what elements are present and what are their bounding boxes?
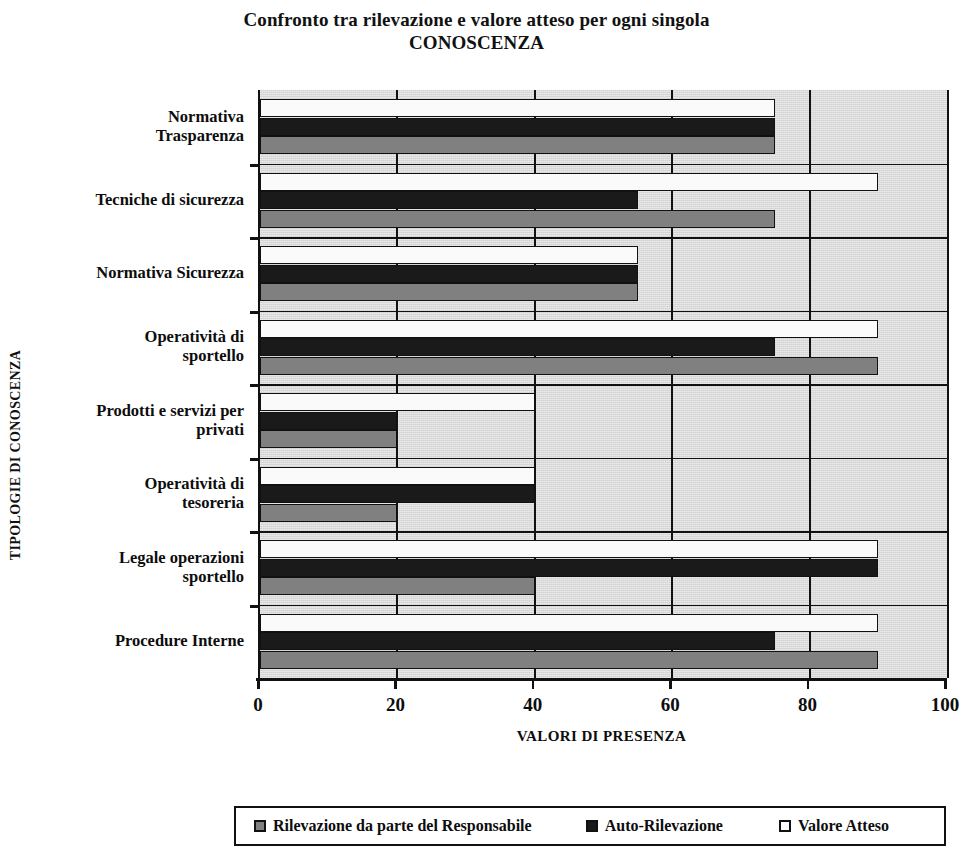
x-axis-tick [807, 678, 810, 689]
legend-label: Auto-Rilevazione [605, 817, 723, 835]
bar-1-0 [260, 118, 775, 136]
bar-1-5 [260, 485, 535, 503]
category-label: Tecniche di sicurezza [30, 190, 244, 209]
category-axis-labels: NormativaTrasparenzaTecniche di sicurezz… [30, 90, 252, 678]
bar-2-5 [260, 467, 535, 485]
category-label-line: sportello [30, 567, 244, 586]
category-label: Legale operazionisportello [30, 548, 244, 586]
bar-group [260, 384, 947, 458]
category-label-line: Trasparenza [30, 126, 244, 145]
x-axis-tick [944, 678, 947, 689]
bar-1-4 [260, 412, 397, 430]
bar-0-3 [260, 357, 878, 375]
y-axis-tick [250, 164, 259, 167]
legend-swatch-icon [254, 820, 266, 832]
legend-item[interactable]: Rilevazione da parte del Responsabile [254, 817, 532, 835]
x-axis-tick-label: 60 [640, 694, 700, 716]
x-axis-tick [257, 678, 260, 689]
x-axis-tick-label: 80 [778, 694, 838, 716]
bar-0-7 [260, 651, 878, 669]
category-label-line: privati [30, 420, 244, 439]
bar-2-1 [260, 173, 878, 191]
legend-swatch-icon [586, 820, 598, 832]
bar-group [260, 605, 947, 679]
bar-1-3 [260, 338, 775, 356]
category-label: Procedure Interne [30, 631, 244, 650]
x-axis-tick-label: 40 [503, 694, 563, 716]
bar-2-0 [260, 99, 775, 117]
bar-2-3 [260, 320, 878, 338]
bar-0-2 [260, 283, 638, 301]
category-label: Operatività disportello [30, 327, 244, 365]
x-axis-title: VALORI DI PRESENZA [258, 728, 945, 745]
category-label: Normativa Sicurezza [30, 263, 244, 282]
bar-0-6 [260, 577, 535, 595]
bar-0-4 [260, 430, 397, 448]
bar-2-4 [260, 393, 535, 411]
bar-1-2 [260, 265, 638, 283]
x-axis-tick-label: 100 [915, 694, 964, 716]
x-axis-tick [669, 678, 672, 689]
category-label-line: sportello [30, 346, 244, 365]
category-label-line: Prodotti e servizi per [30, 401, 244, 420]
y-axis-title-text: TIPOLOGIE DI CONOSCENZA [8, 350, 24, 561]
category-label-line: Operatività di [30, 327, 244, 346]
bar-1-1 [260, 191, 638, 209]
bar-group [260, 311, 947, 385]
legend-swatch-icon [779, 820, 791, 832]
category-label-line: Tecniche di sicurezza [30, 190, 244, 209]
chart-title: Confronto tra rilevazione e valore attes… [0, 8, 953, 54]
bar-2-2 [260, 246, 638, 264]
category-label-line: Normativa Sicurezza [30, 263, 244, 282]
y-axis-tick [250, 237, 259, 240]
bar-1-6 [260, 559, 878, 577]
category-label-line: Procedure Interne [30, 631, 244, 650]
category-label-line: tesoreria [30, 493, 244, 512]
category-label: NormativaTrasparenza [30, 107, 244, 145]
bar-group [260, 164, 947, 238]
x-axis-tick-label: 20 [365, 694, 425, 716]
bar-0-0 [260, 136, 775, 154]
bar-group [260, 458, 947, 532]
y-axis-tick [250, 605, 259, 608]
y-axis-title: TIPOLOGIE DI CONOSCENZA [2, 245, 30, 665]
bar-group [260, 531, 947, 605]
legend-item[interactable]: Auto-Rilevazione [586, 817, 723, 835]
bar-group [260, 237, 947, 311]
bar-2-7 [260, 614, 878, 632]
y-axis-tick [250, 458, 259, 461]
chart-title-line-2: CONOSCENZA [0, 31, 953, 54]
legend-label: Valore Atteso [798, 817, 889, 835]
plot-area [258, 90, 949, 678]
category-label-line: Operatività di [30, 474, 244, 493]
bar-1-7 [260, 632, 775, 650]
chart-legend: Rilevazione da parte del ResponsabileAut… [234, 806, 946, 846]
chart-title-line-1: Confronto tra rilevazione e valore attes… [244, 9, 710, 30]
bar-0-5 [260, 504, 397, 522]
x-axis-tick [532, 678, 535, 689]
y-axis-tick [250, 311, 259, 314]
bar-2-6 [260, 540, 878, 558]
x-axis-tick-label: 0 [228, 694, 288, 716]
category-label: Prodotti e servizi perprivati [30, 401, 244, 439]
y-axis-tick [250, 531, 259, 534]
bar-0-1 [260, 210, 775, 228]
category-label-line: Legale operazioni [30, 548, 244, 567]
x-axis-tick [394, 678, 397, 689]
y-axis-tick [250, 384, 259, 387]
legend-label: Rilevazione da parte del Responsabile [273, 817, 532, 835]
legend-item[interactable]: Valore Atteso [779, 817, 889, 835]
x-axis-line [256, 678, 947, 681]
bar-group [260, 90, 947, 164]
category-label-line: Normativa [30, 107, 244, 126]
category-label: Operatività ditesoreria [30, 474, 244, 512]
